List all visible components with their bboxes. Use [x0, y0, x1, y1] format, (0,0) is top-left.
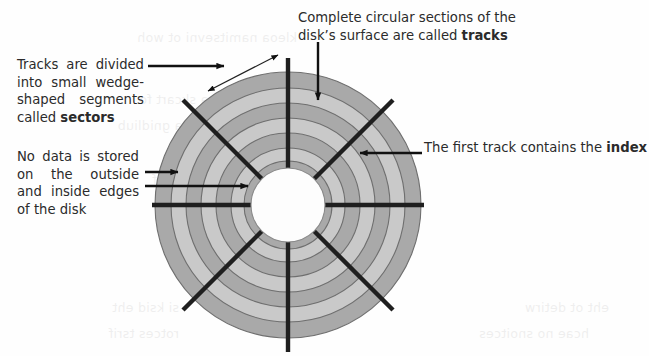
callout-index: The first track contains the index: [424, 139, 644, 157]
callout-tracks: Complete circular sections of the disk’s…: [298, 9, 524, 44]
callout-index-text: The first track contains the: [424, 140, 606, 155]
callout-sectors-emphasis: sectors: [60, 110, 114, 125]
callout-no-data: No data is stored on the outside and ins…: [17, 148, 139, 218]
callout-sectors: Tracks are divided into small wedge-shap…: [17, 56, 144, 126]
diagram-page: kleoa namitsevni ot wohsrotcev dna skcar…: [0, 0, 649, 356]
callout-tracks-emphasis: tracks: [462, 28, 508, 43]
callout-no-data-text: No data is stored on the outside and ins…: [17, 149, 139, 217]
callout-index-emphasis: index: [606, 140, 647, 155]
disk-hub-hole: [251, 168, 325, 242]
